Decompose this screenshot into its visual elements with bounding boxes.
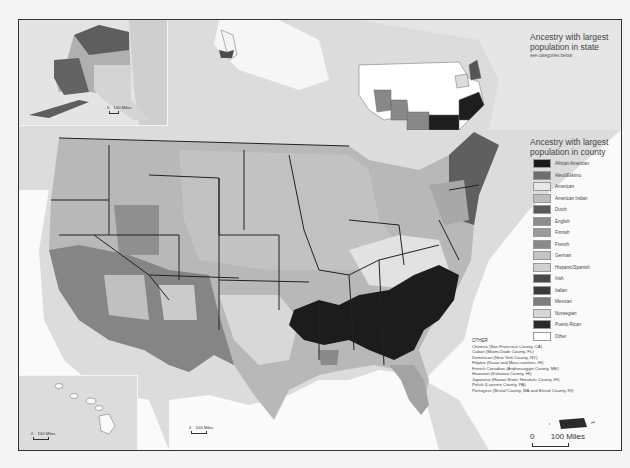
county-legend: African AmericanAleut/EskimoAmericanAmer…: [533, 158, 590, 342]
legend-swatch: [533, 274, 551, 283]
legend-item: Italian: [533, 285, 590, 296]
legend-item: Norwegian: [533, 308, 590, 319]
alaska-inset: 0 100 Miles: [19, 20, 168, 126]
legend-label: Hispanic/Spanish: [555, 265, 590, 270]
title-line: population in state: [530, 42, 608, 52]
legend-item: Puerto Rican: [533, 319, 590, 330]
puerto-rico-scale: 0 100 Miles: [530, 432, 585, 441]
legend-swatch: [533, 159, 551, 168]
legend-item: Irish: [533, 273, 590, 284]
legend-label: German: [555, 253, 571, 258]
legend-item: Aleut/Eskimo: [533, 170, 590, 181]
scale-bar: [109, 111, 119, 114]
state-inset-subtitle: see categories below: [530, 52, 608, 60]
scale-zero: 0: [31, 431, 33, 436]
legend-swatch: [533, 251, 551, 260]
legend-swatch: [533, 240, 551, 249]
legend-label: Italian: [555, 288, 567, 293]
legend-item: African American: [533, 158, 590, 169]
legend-label: French: [555, 242, 569, 247]
legend-swatch: [533, 205, 551, 214]
legend-swatch: [533, 297, 551, 306]
scale-bar: [191, 431, 207, 434]
county-legend-title: Ancestry with largest population in coun…: [530, 137, 608, 157]
legend-label: Mexican: [555, 299, 572, 304]
legend-label: American Indian: [555, 196, 588, 201]
legend-label: African American: [555, 161, 589, 166]
legend-item: Finnish: [533, 227, 590, 238]
legend-item: German: [533, 250, 590, 261]
scale-label: 100 Miles: [196, 425, 214, 430]
alaska-map: [19, 20, 167, 125]
legend-label: English: [555, 219, 570, 224]
legend-swatch: [533, 263, 551, 272]
state-inset-title: Ancestry with largest population in stat…: [530, 32, 608, 60]
legend-swatch: [533, 286, 551, 295]
legend-label: American: [555, 184, 574, 189]
scale-label: 100 Miles: [38, 431, 56, 436]
legend-swatch: [533, 309, 551, 318]
title-line: Ancestry with largest: [530, 32, 608, 42]
legend-label: Puerto Rican: [555, 322, 581, 327]
other-ancestries: OTHER Chinese (San Francisco County, CA)…: [472, 338, 573, 393]
main-scale: 0 100 Miles: [189, 425, 213, 430]
legend-item: Hispanic/Spanish: [533, 262, 590, 273]
hawaii-scale: 0 100 Miles: [31, 431, 55, 436]
legend-label: Irish: [555, 276, 564, 281]
legend-label: Dutch: [555, 207, 567, 212]
legend-swatch: [533, 320, 551, 329]
legend-item: English: [533, 216, 590, 227]
scale-zero: 0: [107, 105, 109, 110]
legend-item: American: [533, 181, 590, 192]
legend-item: Mexican: [533, 296, 590, 307]
legend-item: Dutch: [533, 204, 590, 215]
scale-zero: 0: [530, 432, 534, 441]
alaska-scale: 0 100 Miles: [107, 105, 131, 110]
legend-item: American Indian: [533, 193, 590, 204]
scale-bar: [532, 443, 569, 447]
scale-label: 100 Miles: [551, 432, 585, 441]
legend-swatch: [533, 182, 551, 191]
other-item: Portugese (Bristol County, MA and Bristo…: [472, 388, 573, 394]
legend-swatch: [533, 194, 551, 203]
title-line: Ancestry with largest: [530, 137, 608, 147]
legend-item: French: [533, 239, 590, 250]
hawaii-inset: 0 100 Miles: [19, 375, 138, 451]
scale-zero: 0: [189, 425, 191, 430]
legend-swatch: [533, 217, 551, 226]
legend-label: Aleut/Eskimo: [555, 173, 581, 178]
legend-swatch: [533, 171, 551, 180]
scale-label: 100 Miles: [114, 105, 132, 110]
title-line: population in county: [530, 147, 608, 157]
legend-label: Norwegian: [555, 311, 577, 316]
legend-swatch: [533, 228, 551, 237]
legend-label: Finnish: [555, 230, 570, 235]
scale-bar: [33, 437, 49, 440]
